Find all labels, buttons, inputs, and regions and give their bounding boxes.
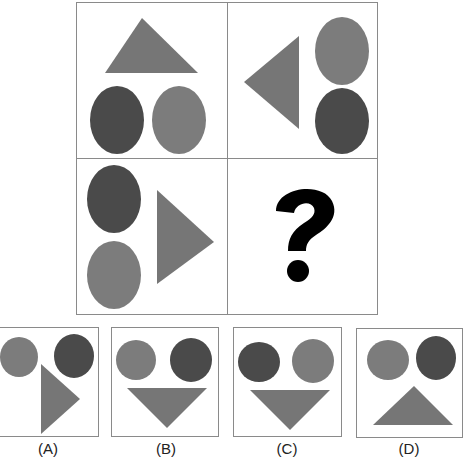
grid-cell-1: [76, 2, 228, 159]
option-d-box[interactable]: [356, 328, 463, 438]
option-b-box[interactable]: [111, 327, 219, 437]
triangle-right-shape: [157, 190, 214, 284]
option-b-shapes: [112, 328, 220, 438]
dark-oval-shape: [315, 88, 369, 154]
triangle-up-shape: [373, 386, 453, 425]
grid-cell-4-missing: [227, 158, 378, 315]
option-c-label[interactable]: (C): [267, 440, 307, 457]
light-oval-shape: [152, 86, 206, 154]
triangle-up-shape: [105, 18, 198, 73]
light-circle-shape: [116, 340, 156, 380]
question-mark-icon: [228, 159, 379, 316]
dark-circle-shape: [170, 338, 212, 382]
cell-3-shapes: [77, 159, 229, 316]
triangle-down-shape: [250, 390, 330, 430]
puzzle-grid: [76, 2, 378, 315]
option-d-label[interactable]: (D): [389, 440, 429, 457]
light-circle-shape: [367, 340, 409, 380]
option-a-label[interactable]: (A): [28, 440, 68, 457]
dark-circle-shape: [54, 334, 94, 378]
cell-2-shapes: [228, 3, 379, 160]
light-circle-shape: [0, 337, 38, 377]
dark-oval-shape: [87, 165, 141, 233]
option-a-box[interactable]: [0, 327, 99, 437]
light-oval-shape: [315, 17, 369, 85]
triangle-down-shape: [127, 388, 207, 428]
light-circle-shape: [292, 339, 334, 383]
triangle-left-shape: [244, 36, 299, 129]
light-oval-shape: [87, 241, 141, 309]
option-c-box[interactable]: [233, 327, 342, 437]
option-b-label[interactable]: (B): [146, 440, 186, 457]
grid-cell-2: [227, 2, 378, 159]
dark-oval-shape: [90, 86, 144, 154]
option-c-shapes: [234, 328, 343, 438]
option-a-shapes: [0, 328, 100, 438]
dark-circle-shape: [416, 336, 456, 380]
cell-1-shapes: [77, 3, 229, 160]
grid-cell-3: [76, 158, 228, 315]
option-d-shapes: [357, 329, 463, 439]
dark-circle-shape: [238, 342, 280, 382]
